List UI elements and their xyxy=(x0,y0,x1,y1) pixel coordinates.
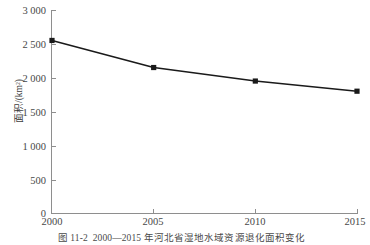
data-point-2000 xyxy=(49,38,54,43)
series-line-wetland-area xyxy=(52,40,357,91)
data-point-2015 xyxy=(354,89,359,94)
data-point-2005 xyxy=(151,65,156,70)
series-markers xyxy=(49,38,359,94)
data-point-2010 xyxy=(253,78,258,83)
figure-caption: 图 11-2 2000—2015 年河北省湿地水域资源退化面积变化 xyxy=(0,232,363,244)
